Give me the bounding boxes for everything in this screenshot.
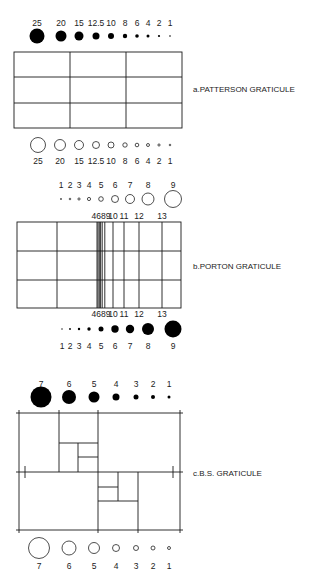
patterson-open-circle: [108, 142, 114, 148]
bs-filled-circle: [31, 387, 52, 408]
bs-open-label: 5: [92, 561, 97, 571]
bs-open-label: 4: [114, 561, 119, 571]
patterson-caption: a.PATTERSON GRATICULE: [193, 85, 295, 94]
porton-open-label: 4: [87, 180, 92, 190]
graticule-figure: 25201512.51086421 25201512.51086421 a.PA…: [0, 0, 311, 580]
patterson-open-label: 25: [33, 156, 43, 166]
bs-filled-circle: [168, 396, 171, 399]
patterson-filled-label: 10: [106, 18, 116, 28]
patterson-open-circle: [75, 141, 84, 150]
porton-open-circle: [60, 198, 61, 199]
porton-open-label: 1: [59, 180, 64, 190]
porton-filled-label: 7: [128, 341, 133, 351]
bs-filled-label: 6: [67, 379, 72, 389]
porton-open-label: 3: [77, 180, 82, 190]
bs-filled-label: 3: [134, 379, 139, 389]
patterson-filled-reference-circles: 25201512.51086421: [30, 18, 173, 44]
porton-graticule-grid: 468946891010111112121313: [17, 211, 181, 319]
patterson-filled-circle: [93, 33, 100, 40]
patterson-open-circle: [123, 143, 127, 147]
grid-border: [14, 52, 182, 128]
porton-open-label: 6: [113, 180, 118, 190]
bs-open-reference-circles: 7654321: [29, 538, 172, 572]
patterson-filled-circle: [123, 34, 127, 38]
porton-open-circle: [87, 197, 90, 200]
bs-open-circle: [168, 547, 171, 550]
porton-filled-reference-circles: 123456789: [60, 321, 182, 352]
porton-filled-circle: [69, 328, 71, 330]
bs-filled-circle: [134, 395, 139, 400]
porton-filled-label: 2: [68, 341, 73, 351]
patterson-open-label: 4: [146, 156, 151, 166]
porton-open-circle: [99, 197, 104, 202]
porton-grid-label-top: 10: [108, 211, 118, 221]
porton-caption: b.PORTON GRATICULE: [193, 262, 281, 271]
bs-open-circle: [134, 546, 139, 551]
porton-open-circle: [112, 196, 119, 203]
patterson-open-circle: [93, 142, 100, 149]
porton-open-circle: [142, 193, 154, 205]
patterson-filled-circle: [135, 34, 139, 38]
bs-filled-label: 5: [92, 379, 97, 389]
porton-open-circle: [69, 198, 71, 200]
porton-filled-circle: [99, 327, 104, 332]
porton-filled-circle: [61, 328, 62, 329]
porton-filled-label: 8: [146, 341, 151, 351]
bs-open-label: 2: [151, 561, 156, 571]
bs-graticule-grid: [16, 410, 183, 533]
bs-open-label: 7: [37, 561, 42, 571]
patterson-open-circle: [147, 144, 150, 147]
patterson-open-label: 6: [135, 156, 140, 166]
patterson-filled-circle: [75, 32, 84, 41]
patterson-filled-label: 2: [157, 18, 162, 28]
bs-open-circle: [89, 543, 100, 554]
patterson-graticule-grid: [14, 52, 182, 128]
porton-filled-label: 5: [99, 341, 104, 351]
porton-grid-label-top: 12: [134, 211, 144, 221]
porton-filled-label: 6: [113, 341, 118, 351]
porton-filled-label: 9: [171, 341, 176, 351]
patterson-filled-circle: [169, 35, 171, 37]
porton-filled-label: 1: [60, 341, 65, 351]
patterson-filled-circle: [147, 35, 150, 38]
porton-filled-circle: [142, 323, 154, 335]
patterson-filled-label: 15: [74, 18, 84, 28]
bs-open-circle: [113, 545, 120, 552]
patterson-open-label: 20: [55, 156, 65, 166]
patterson-open-label: 1: [168, 156, 173, 166]
patterson-open-circle: [55, 140, 66, 151]
porton-grid-label-bottom: 10: [108, 309, 118, 319]
porton-open-label: 2: [68, 180, 73, 190]
porton-filled-label: 4: [87, 341, 92, 351]
bs-open-label: 1: [167, 561, 172, 571]
porton-open-label: 5: [99, 180, 104, 190]
porton-open-circle: [78, 198, 80, 200]
porton-filled-circle: [126, 325, 134, 333]
patterson-open-circle: [31, 138, 46, 153]
bs-caption: c.B.S. GRATICULE: [193, 469, 262, 478]
bs-open-circle: [62, 541, 76, 555]
bs-open-label: 3: [134, 561, 139, 571]
patterson-filled-circle: [108, 33, 114, 39]
porton-grid-label-bottom: 13: [157, 309, 167, 319]
porton-grid-label-bottom: 12: [134, 309, 144, 319]
porton-grid-label-top: 11: [120, 211, 129, 221]
porton-filled-circle: [87, 327, 90, 330]
bs-filled-circle: [113, 394, 120, 401]
porton-grid-label-bottom: 11: [120, 309, 129, 319]
porton-open-circle: [126, 195, 135, 204]
patterson-filled-label: 8: [123, 18, 128, 28]
bs-open-label: 6: [67, 561, 72, 571]
porton-filled-label: 3: [77, 341, 82, 351]
porton-filled-circle: [78, 328, 80, 330]
bs-open-circle: [151, 546, 155, 550]
patterson-open-circle: [158, 144, 160, 146]
patterson-open-label: 2: [157, 156, 162, 166]
patterson-filled-label: 25: [32, 18, 42, 28]
patterson-filled-label: 1: [168, 18, 173, 28]
patterson-filled-label: 20: [56, 18, 66, 28]
bs-filled-label: 4: [114, 379, 119, 389]
patterson-filled-circle: [56, 31, 67, 42]
patterson-open-reference-circles: 25201512.51086421: [31, 138, 173, 167]
porton-open-circle: [165, 191, 182, 208]
